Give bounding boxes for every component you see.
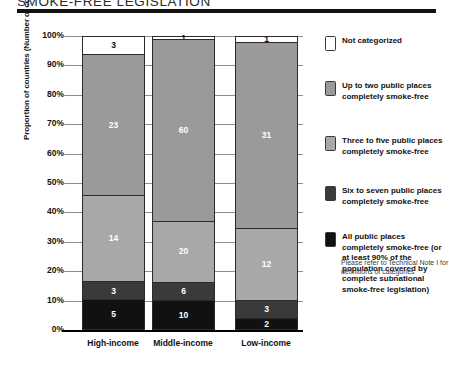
y-tick-label: 0%	[52, 324, 64, 334]
bar-segment-value: 6	[181, 287, 186, 296]
legend-label: Three to five public places completely s…	[342, 136, 446, 157]
y-axis-label: Proportion of countries (Number of count…	[22, 0, 31, 140]
legend-swatch-icon	[325, 136, 336, 151]
bar-high-income[interactable]: 3231435	[82, 36, 145, 330]
legend-item-0[interactable]: Not categorized	[325, 36, 446, 51]
y-tick-label: 90%	[47, 59, 64, 69]
bar-segment-value: 3	[111, 41, 116, 50]
legend-item-1[interactable]: Up to two public places completely smoke…	[325, 81, 446, 102]
title-divider	[17, 9, 436, 13]
y-tick-label: 70%	[47, 118, 64, 128]
bar-segment[interactable]: 12	[235, 228, 298, 300]
y-tick-label: 80%	[47, 89, 64, 99]
bar-segment[interactable]: 6	[152, 282, 215, 300]
y-tick-label: 10%	[47, 295, 64, 305]
legend-label: Not categorized	[342, 36, 446, 47]
y-tick-label: 30%	[47, 236, 64, 246]
y-tick-label: 100%	[42, 30, 64, 40]
y-tick-label: 20%	[47, 265, 64, 275]
bar-middle-income[interactable]: 16020610	[152, 36, 215, 330]
bar-segment[interactable]: 60	[152, 39, 215, 221]
legend-item-3[interactable]: Six to seven public places completely sm…	[325, 186, 446, 207]
y-tick-label: 40%	[47, 206, 64, 216]
bar-segment-value: 5	[111, 310, 116, 319]
bar-segment-value: 23	[109, 121, 118, 130]
chart-plot-area: Proportion of countries (Number of count…	[68, 36, 303, 330]
legend-item-2[interactable]: Three to five public places completely s…	[325, 136, 446, 157]
bar-segment-value: 20	[179, 247, 188, 256]
bar-segment[interactable]: 23	[82, 54, 145, 195]
bar-segment-value: 12	[262, 260, 271, 269]
bar-segment[interactable]: 31	[235, 42, 298, 228]
bar-segment-value: 60	[179, 126, 188, 135]
page-title: SMOKE-FREE LEGISLATION	[17, 0, 211, 9]
bar-segment[interactable]: 20	[152, 221, 215, 282]
legend-label: Six to seven public places completely sm…	[342, 186, 446, 207]
bar-segment[interactable]: 3	[235, 300, 298, 318]
bar-low-income[interactable]: 1311232	[235, 36, 298, 330]
legend-swatch-icon	[325, 36, 336, 51]
bar-segment[interactable]: 5	[82, 299, 145, 330]
x-axis-label-low-income: Low-income	[216, 338, 316, 348]
y-gridline	[62, 330, 303, 332]
bar-segment-value: 3	[111, 287, 116, 296]
bar-segment-value: 31	[262, 131, 271, 140]
bar-segment-value: 3	[264, 305, 269, 314]
bar-segment[interactable]: 3	[82, 36, 145, 54]
bar-segment-value: 10	[179, 311, 188, 320]
legend-swatch-icon	[325, 81, 336, 96]
bar-segment[interactable]: 3	[82, 281, 145, 299]
legend-swatch-icon	[325, 232, 336, 247]
bar-segment-value: 14	[109, 234, 118, 243]
bar-segment[interactable]: 2	[235, 318, 298, 330]
bar-segment[interactable]: 14	[82, 195, 145, 281]
legend-label: Up to two public places completely smoke…	[342, 81, 446, 102]
legend-footnote: Please refer to Technical Note I for def…	[341, 258, 449, 276]
legend-swatch-icon	[325, 186, 336, 201]
y-tick-label: 50%	[47, 177, 64, 187]
bar-segment[interactable]: 10	[152, 300, 215, 330]
y-tick-label: 60%	[47, 148, 64, 158]
bar-segment-value: 2	[264, 320, 269, 329]
